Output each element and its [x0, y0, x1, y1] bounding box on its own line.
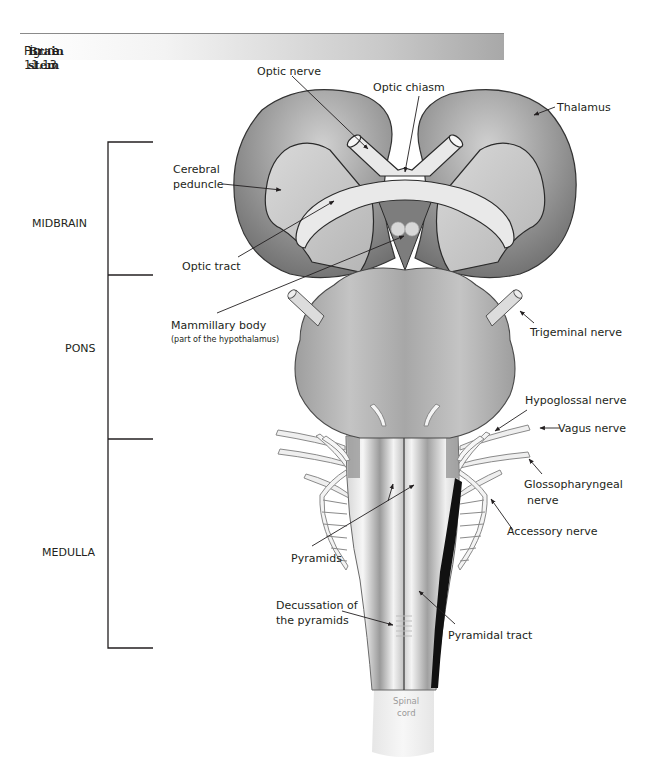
label-spinal-cord-2: cord: [397, 708, 416, 718]
label-decussation: Decussation of: [276, 599, 359, 612]
label-glossopharyngeal-nerve-2: nerve: [527, 494, 559, 507]
label-mammillary-note: (part of the hypothalamus): [171, 335, 279, 344]
label-hypoglossal-nerve: Hypoglossal nerve: [525, 394, 627, 407]
label-optic-tract: Optic tract: [182, 260, 241, 273]
label-optic-chiasm: Optic chiasm: [373, 81, 445, 94]
label-mammillary-body: Mammillary body: [171, 319, 267, 332]
label-thalamus: Thalamus: [556, 101, 611, 114]
label-pyramidal-tract: Pyramidal tract: [448, 629, 533, 642]
label-accessory-nerve: Accessory nerve: [507, 525, 598, 538]
region-medulla: MEDULLA: [42, 546, 95, 559]
label-decussation-2: the pyramids: [276, 614, 349, 627]
brain-stem-diagram: MIDBRAIN PONS MEDULLA: [0, 0, 662, 761]
label-cerebral-peduncle-2: peduncle: [173, 178, 224, 191]
label-spinal-cord: Spinal: [393, 696, 419, 706]
medulla-oblongata: [346, 430, 462, 690]
region-bracket: [108, 142, 153, 648]
region-pons: PONS: [65, 342, 96, 355]
label-optic-nerve: Optic nerve: [257, 65, 321, 78]
label-pyramids: Pyramids: [291, 552, 342, 565]
label-cerebral-peduncle: Cerebral: [173, 163, 220, 176]
label-glossopharyngeal-nerve: Glossopharyngeal: [524, 478, 623, 491]
label-vagus-nerve: Vagus nerve: [558, 422, 626, 435]
region-midbrain: MIDBRAIN: [32, 217, 87, 230]
label-trigeminal-nerve: Trigeminal nerve: [529, 326, 622, 339]
pons: [295, 268, 515, 438]
